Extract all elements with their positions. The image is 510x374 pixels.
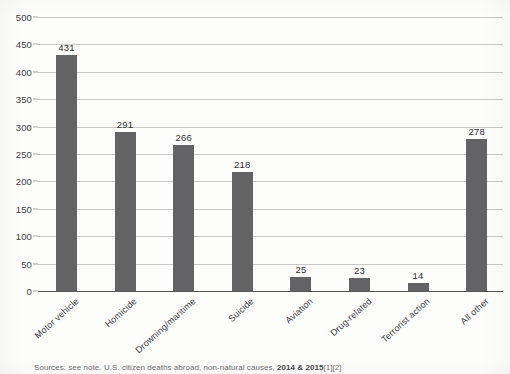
gridline-500 xyxy=(38,17,503,18)
y-axis: 050100150200250300350400450500 xyxy=(0,17,32,291)
source-caption-text: Sources: see note. U.S. citizen deaths a… xyxy=(34,365,342,372)
y-tick-label-150: 150 xyxy=(16,203,32,214)
bar-4 xyxy=(290,277,311,291)
bar-6 xyxy=(408,283,429,291)
y-tick-label-100: 100 xyxy=(16,231,32,242)
bar-1 xyxy=(115,132,136,291)
gridline-150 xyxy=(38,209,503,210)
bar-3 xyxy=(232,172,253,291)
y-tick-label-400: 400 xyxy=(16,66,32,77)
bar-chart: 050100150200250300350400450500 431291266… xyxy=(0,0,510,374)
y-tick-label-0: 0 xyxy=(27,286,32,297)
y-tick-label-200: 200 xyxy=(16,176,32,187)
bar-value-label-0: 431 xyxy=(47,42,87,53)
x-tick-label-2: Drowning/maritime xyxy=(133,296,197,355)
y-tick-label-500: 500 xyxy=(16,12,32,23)
y-tick-label-300: 300 xyxy=(16,121,32,132)
bar-value-label-5: 23 xyxy=(340,265,380,276)
bar-7 xyxy=(466,139,487,291)
bar-5 xyxy=(349,278,370,291)
y-tick-label-450: 450 xyxy=(16,39,32,50)
x-tick-label-7: All other xyxy=(458,296,490,326)
gridline-400 xyxy=(38,72,503,73)
x-tick-label-6: Terrorist action xyxy=(379,296,431,345)
x-tick-label-3: Suicide xyxy=(227,296,256,324)
axis-baseline xyxy=(38,291,503,292)
y-tick-label-350: 350 xyxy=(16,94,32,105)
gridline-450 xyxy=(38,44,503,45)
x-tick-label-1: Homicide xyxy=(103,296,138,329)
gridline-50 xyxy=(38,264,503,265)
bar-value-label-4: 25 xyxy=(281,264,321,275)
x-tick-label-5: Drug-related xyxy=(328,296,373,338)
gridline-350 xyxy=(38,99,503,100)
bar-value-label-2: 266 xyxy=(164,132,204,143)
bar-value-label-7: 278 xyxy=(457,126,497,137)
gridline-250 xyxy=(38,154,503,155)
bar-value-label-6: 14 xyxy=(398,270,438,281)
bar-value-label-1: 291 xyxy=(105,119,145,130)
plot-area: 431291266218252314278 xyxy=(38,17,503,291)
bar-2 xyxy=(173,145,194,291)
gridline-100 xyxy=(38,236,503,237)
y-tick-label-50: 50 xyxy=(21,258,32,269)
source-caption: Sources: see note. U.S. citizen deaths a… xyxy=(0,365,510,374)
x-tick-label-4: Aviation xyxy=(283,296,314,326)
gridline-200 xyxy=(38,181,503,182)
bar-0 xyxy=(56,55,77,291)
bar-value-label-3: 218 xyxy=(222,159,262,170)
x-tick-label-0: Motor vehicle xyxy=(32,296,80,341)
y-tick-label-250: 250 xyxy=(16,149,32,160)
